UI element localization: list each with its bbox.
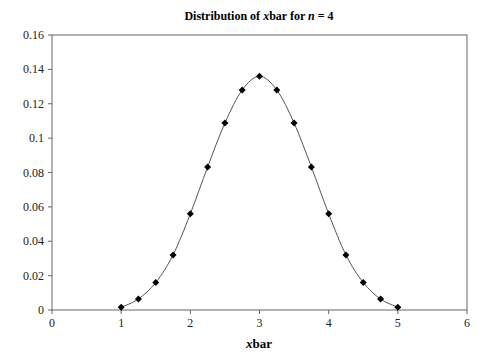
x-tick-label: 5 [395, 316, 401, 330]
y-tick-label: 0.04 [23, 234, 44, 248]
x-axis: 0123456 [49, 310, 470, 330]
x-tick-label: 0 [49, 316, 55, 330]
y-tick-label: 0.16 [23, 28, 44, 42]
y-tick-label: 0 [38, 303, 44, 317]
x-axis-label: xbar [245, 336, 272, 351]
y-tick-label: 0.14 [23, 62, 44, 76]
y-tick-label: 0.02 [23, 269, 44, 283]
y-axis: 00.020.040.060.080.10.120.140.16 [23, 28, 52, 317]
y-tick-label: 0.1 [29, 131, 44, 145]
y-tick-label: 0.08 [23, 166, 44, 180]
x-tick-label: 4 [326, 316, 332, 330]
x-tick-label: 3 [257, 316, 263, 330]
y-tick-label: 0.06 [23, 200, 44, 214]
chart: Distribution of xbar for n = 4 00.020.04… [0, 0, 491, 360]
chart-title: Distribution of xbar for n = 4 [184, 9, 333, 23]
x-tick-label: 6 [464, 316, 470, 330]
y-tick-label: 0.12 [23, 97, 44, 111]
x-tick-label: 2 [187, 316, 193, 330]
x-tick-label: 1 [118, 316, 124, 330]
